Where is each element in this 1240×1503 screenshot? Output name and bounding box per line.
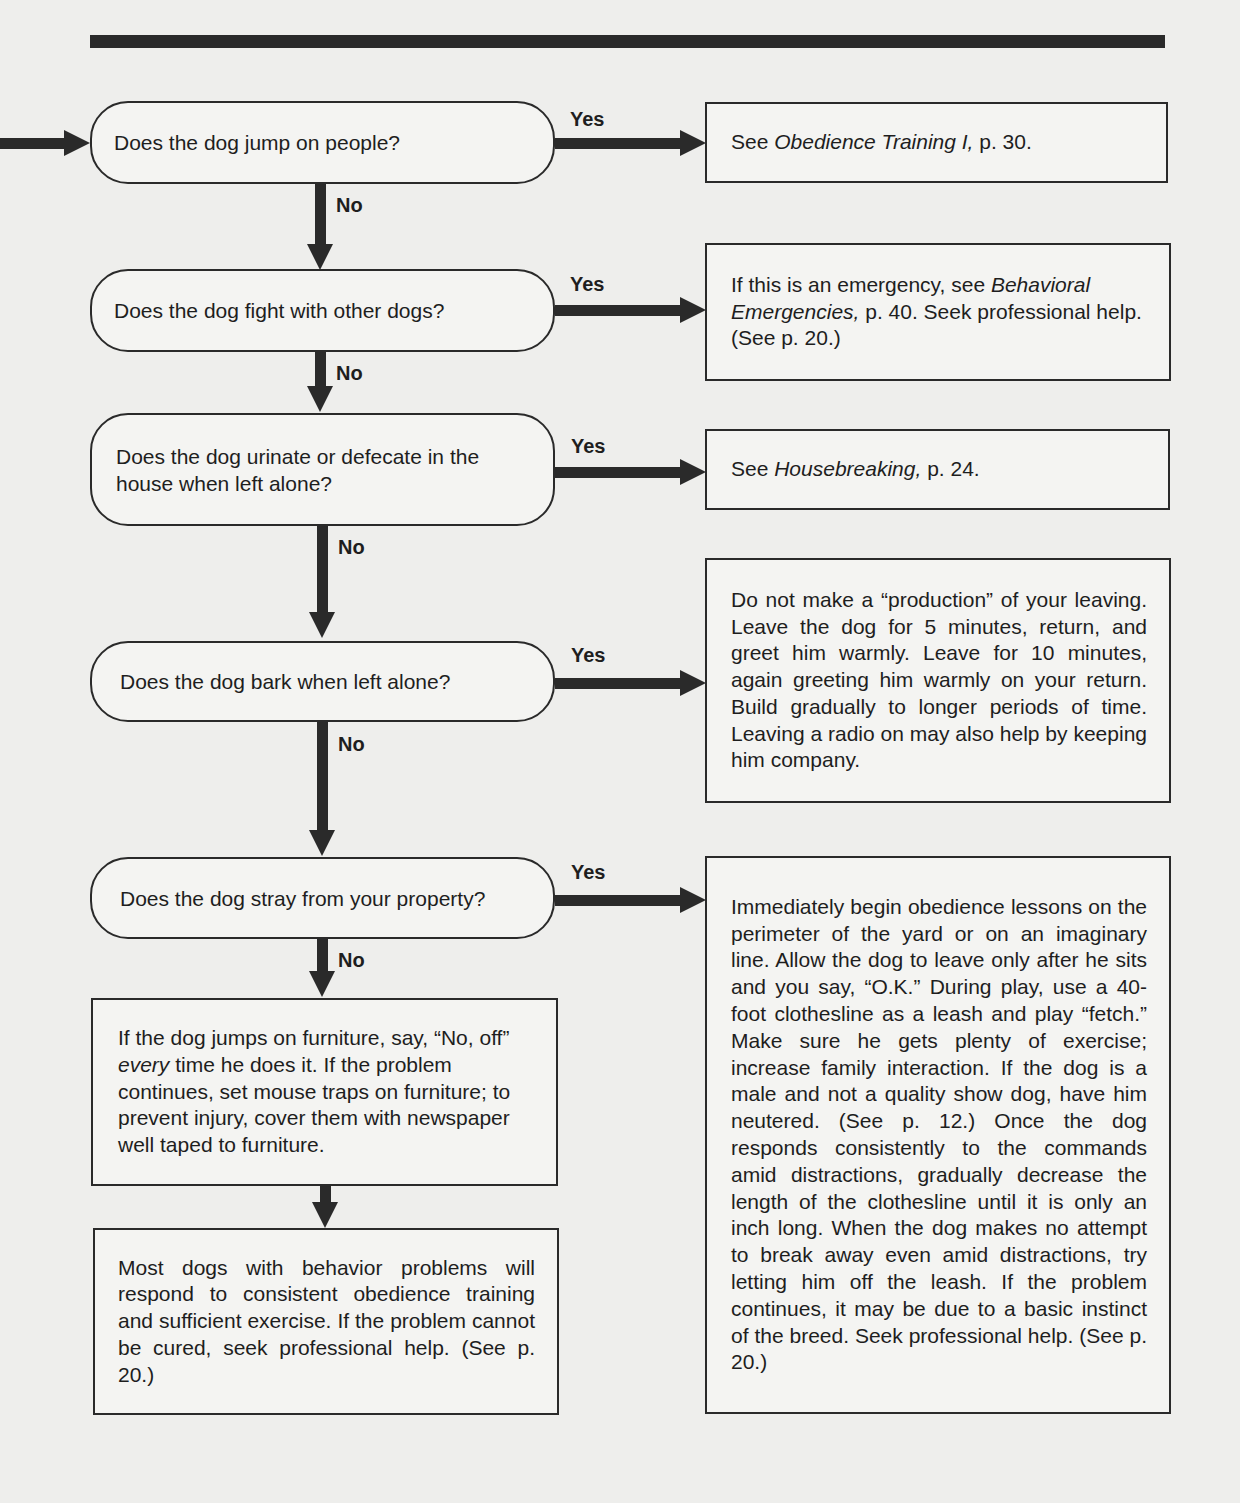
no-arrow-head-icon	[307, 244, 333, 270]
no-arrow-head-icon	[309, 830, 335, 856]
no-arrow-line	[315, 184, 326, 248]
no-arrow-head-icon	[309, 612, 335, 638]
no-arrow-head-icon	[307, 386, 333, 412]
yes-label: Yes	[571, 435, 605, 458]
yes-label: Yes	[570, 108, 604, 131]
answer-behavioral-emergencies: If this is an emergency, see Behavioral …	[705, 243, 1171, 381]
no-arrow-line	[317, 722, 328, 834]
question-urinate-defecate: Does the dog urinate or defecate in the …	[90, 413, 555, 526]
no-label: No	[336, 194, 363, 217]
entry-arrow-line	[0, 138, 66, 149]
entry-arrow-head-icon	[64, 130, 90, 156]
yes-arrow-head-icon	[680, 297, 706, 323]
yes-arrow-head-icon	[680, 670, 706, 696]
yes-arrow-line	[555, 467, 685, 478]
yes-arrow-line	[555, 895, 685, 906]
yes-label: Yes	[570, 273, 604, 296]
yes-label: Yes	[571, 644, 605, 667]
header-rule	[90, 35, 1165, 48]
no-label: No	[338, 949, 365, 972]
no-arrow-line	[315, 352, 326, 390]
yes-arrow-head-icon	[680, 459, 706, 485]
question-fight-other-dogs: Does the dog fight with other dogs?	[90, 269, 555, 352]
no-arrow-line	[317, 939, 328, 975]
yes-arrow-line	[555, 678, 685, 689]
yes-label: Yes	[571, 861, 605, 884]
down-arrow-head-icon	[312, 1202, 338, 1228]
no-arrow-line	[317, 526, 328, 616]
answer-housebreaking: See Housebreaking, p. 24.	[705, 429, 1170, 510]
no-label: No	[338, 536, 365, 559]
question-stray-property: Does the dog stray from your property?	[90, 857, 555, 939]
no-arrow-head-icon	[309, 971, 335, 997]
yes-arrow-line	[555, 305, 685, 316]
yes-arrow-head-icon	[680, 130, 706, 156]
yes-arrow-line	[555, 138, 685, 149]
question-jump-on-people: Does the dog jump on people?	[90, 101, 555, 184]
furniture-advice-box: If the dog jumps on furniture, say, “No,…	[91, 998, 558, 1186]
final-advice-box: Most dogs with behavior problems will re…	[93, 1228, 559, 1415]
question-bark-alone: Does the dog bark when left alone?	[90, 641, 555, 722]
yes-arrow-head-icon	[680, 887, 706, 913]
answer-barking: Do not make a “production” of your leavi…	[705, 558, 1171, 803]
answer-straying: Immediately begin obedience lessons on t…	[705, 856, 1171, 1414]
no-label: No	[338, 733, 365, 756]
no-label: No	[336, 362, 363, 385]
answer-obedience-training: See Obedience Training I, p. 30.	[705, 102, 1168, 183]
